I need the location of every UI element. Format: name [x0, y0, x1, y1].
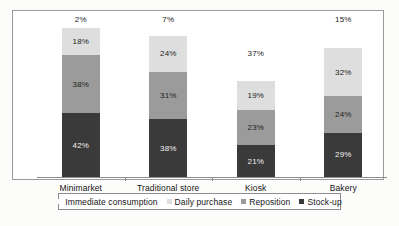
segment-reposition: 31%	[149, 72, 187, 119]
legend-swatch-icon	[57, 199, 62, 204]
segment-stock-up: 38%	[149, 119, 187, 177]
segment-stock-up: 42%	[62, 113, 100, 177]
legend-swatch-icon	[241, 199, 246, 204]
segment-immediate-consumption: 15%	[324, 25, 362, 48]
x-axis-label-minimarket: Minimarket	[59, 183, 102, 193]
segment-value-label: 19%	[248, 91, 264, 100]
x-axis-label-kiosk: Kiosk	[245, 183, 266, 193]
segment-daily-purchase: 19%	[237, 81, 275, 110]
segment-value-label: 29%	[335, 150, 351, 159]
segment-reposition: 38%	[62, 55, 100, 113]
legend-item-daily-purchase: Daily purchase	[167, 197, 233, 207]
x-axis-label-bakery: Bakery	[330, 183, 357, 193]
segment-value-label: 23%	[248, 123, 264, 132]
chart-legend: Immediate consumptionDaily purchaseRepos…	[58, 193, 341, 210]
chart-page: 2%18%38%42%7%24%31%38%37%19%23%21%15%32%…	[0, 0, 399, 226]
segment-immediate-consumption: 7%	[149, 25, 187, 36]
segment-value-label: 38%	[73, 80, 89, 89]
plot-area: 2%18%38%42%7%24%31%38%37%19%23%21%15%32%…	[37, 25, 387, 177]
segment-value-label: 38%	[160, 144, 176, 153]
segment-value-label: 37%	[248, 49, 264, 58]
bar-traditional-store: 7%24%31%38%	[149, 25, 187, 177]
legend-item-immediate-consumption: Immediate consumption	[57, 197, 157, 207]
segment-daily-purchase: 32%	[324, 48, 362, 97]
legend-item-label: Daily purchase	[175, 197, 233, 207]
segment-value-label: 32%	[335, 68, 351, 77]
segment-value-label: 42%	[73, 141, 89, 150]
segment-value-label: 21%	[248, 157, 264, 166]
segment-value-label: 7%	[162, 15, 174, 24]
bar-minimarket: 2%18%38%42%	[62, 25, 100, 177]
legend-item-label: Reposition	[249, 197, 290, 207]
segment-immediate-consumption: 37%	[237, 25, 275, 81]
x-axis-label-traditional-store: Traditional store	[137, 183, 199, 193]
segment-value-label: 31%	[160, 91, 176, 100]
x-axis-tick	[300, 177, 301, 181]
legend-item-stock-up: Stock-up	[299, 197, 341, 207]
legend-swatch-icon	[299, 199, 304, 204]
segment-reposition: 23%	[237, 110, 275, 145]
x-axis-tick	[125, 177, 126, 181]
segment-value-label: 2%	[75, 15, 87, 24]
bar-kiosk: 37%19%23%21%	[237, 25, 275, 177]
segment-value-label: 15%	[335, 15, 351, 24]
legend-item-label: Stock-up	[307, 197, 341, 207]
x-axis-tick	[212, 177, 213, 181]
segment-stock-up: 21%	[237, 145, 275, 177]
segment-value-label: 18%	[73, 37, 89, 46]
legend-item-label: Immediate consumption	[65, 197, 157, 207]
segment-value-label: 24%	[335, 110, 351, 119]
bar-bakery: 15%32%24%29%	[324, 25, 362, 177]
segment-value-label: 24%	[160, 49, 176, 58]
segment-reposition: 24%	[324, 96, 362, 132]
segment-daily-purchase: 24%	[149, 36, 187, 72]
segment-daily-purchase: 18%	[62, 28, 100, 55]
legend-item-reposition: Reposition	[241, 197, 290, 207]
legend-swatch-icon	[167, 199, 172, 204]
segment-stock-up: 29%	[324, 133, 362, 177]
chart-frame: 2%18%38%42%7%24%31%38%37%19%23%21%15%32%…	[12, 10, 384, 180]
